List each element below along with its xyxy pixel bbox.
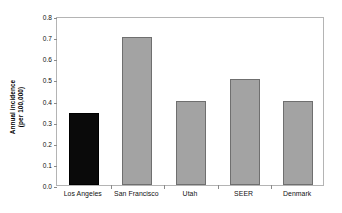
y-axis-tick-mark <box>54 187 58 188</box>
x-axis-tick-mark <box>164 185 165 189</box>
y-axis-tick-label: 0.2 <box>30 140 52 147</box>
bar-chart-figure: Annual incidence (per 100,000) 0.00.10.2… <box>0 0 342 213</box>
x-axis-tick-mark <box>271 185 272 189</box>
bar-seer <box>230 79 260 185</box>
bar-denmark <box>283 101 313 186</box>
y-axis-tick-label: 0.0 <box>30 183 52 190</box>
x-axis-tick-label: Denmark <box>283 190 311 197</box>
x-axis-tick-labels: Los AngelesSan FranciscoUtahSEERDenmark <box>56 190 324 210</box>
y-axis-tick-label: 0.4 <box>30 98 52 105</box>
y-axis-tick-mark <box>54 124 58 125</box>
x-axis-tick-mark <box>111 185 112 189</box>
y-axis-tick-label: 0.7 <box>30 35 52 42</box>
y-axis-tick-labels: 0.00.10.20.30.40.50.60.70.8 <box>30 0 52 213</box>
plot-area <box>56 17 324 186</box>
x-axis-tick-label: Utah <box>183 190 198 197</box>
y-axis-tick-mark <box>54 145 58 146</box>
y-axis-tick-mark <box>54 166 58 167</box>
y-axis-tick-label: 0.3 <box>30 119 52 126</box>
bar-los-angeles <box>69 113 99 185</box>
y-axis-title: Annual incidence (per 100,000) <box>0 0 34 213</box>
y-axis-tick-label: 0.1 <box>30 161 52 168</box>
y-axis-tick-mark <box>54 81 58 82</box>
y-axis-tick-mark <box>54 103 58 104</box>
y-axis-tick-mark <box>54 39 58 40</box>
x-axis-tick-label: Los Angeles <box>64 190 102 197</box>
bar-utah <box>176 101 206 186</box>
x-axis-tick-mark <box>218 185 219 189</box>
x-axis-tick-label: San Francisco <box>114 190 159 197</box>
y-axis-title-line-2: (per 100,000) <box>17 79 25 134</box>
y-axis-title-line-1: Annual incidence <box>9 79 17 134</box>
y-axis-tick-label: 0.8 <box>30 14 52 21</box>
bar-series <box>57 18 323 185</box>
x-axis-tick-label: SEER <box>234 190 253 197</box>
y-axis-tick-mark <box>54 60 58 61</box>
bar-san-francisco <box>122 37 152 185</box>
y-axis-tick-label: 0.6 <box>30 56 52 63</box>
y-axis-tick-mark <box>54 18 58 19</box>
y-axis-tick-label: 0.5 <box>30 77 52 84</box>
